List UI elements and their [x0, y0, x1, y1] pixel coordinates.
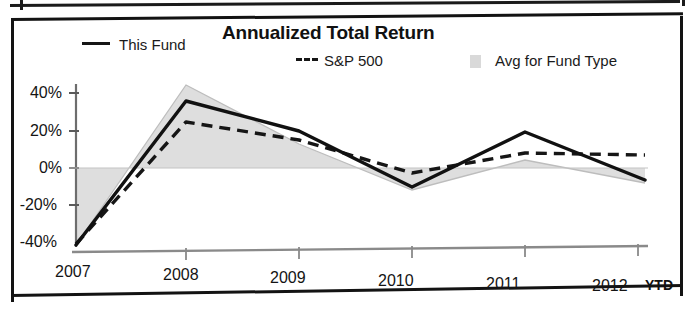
panel-border-right — [680, 16, 683, 296]
upper-box-bottom-edge — [10, 0, 680, 7]
chart-title: Annualized Total Return — [222, 22, 435, 44]
x-axis-label-2009: 2009 — [270, 269, 306, 287]
legend-label-sp500: S&P 500 — [324, 52, 383, 69]
panel-border-bottom — [11, 284, 683, 297]
x-axis-label-2011: 2011 — [486, 275, 520, 293]
upper-box-right-edge — [682, 0, 685, 6]
legend-item-sp500[interactable]: S&P 500 — [296, 52, 383, 70]
x-axis-ytd-suffix: YTD — [645, 277, 673, 293]
y-axis-label-0: 0% — [6, 159, 62, 177]
panel-border-top — [11, 12, 683, 21]
legend-item-this-fund[interactable]: This Fund — [82, 36, 186, 54]
legend-label-this-fund: This Fund — [119, 36, 186, 53]
solid-line-icon — [82, 42, 110, 45]
y-axis-label-neg40: -40% — [1, 233, 57, 251]
x-axis-label-2012: 2012 — [592, 277, 628, 295]
legend-item-avg-fund-type[interactable]: Avg for Fund Type — [470, 52, 617, 70]
x-axis-label-2008: 2008 — [163, 266, 199, 284]
x-axis-label-2010: 2010 — [378, 272, 414, 290]
y-axis-label-neg20: -20% — [1, 196, 57, 214]
scanned-page: Annualized Total Return This Fund S&P 50… — [0, 0, 691, 312]
legend-label-avg-fund-type: Avg for Fund Type — [495, 52, 617, 69]
upper-box-left-edge — [20, 0, 23, 10]
y-axis-label-40: 40% — [6, 84, 62, 102]
area-swatch-icon — [470, 55, 481, 68]
x-axis-label-2007: 2007 — [55, 263, 91, 281]
dashed-line-icon — [296, 58, 318, 61]
y-axis-label-20: 20% — [6, 122, 62, 140]
